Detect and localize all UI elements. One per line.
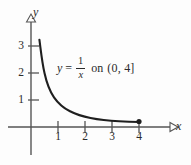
fraction-denominator: x <box>76 69 85 81</box>
on-keyword: on <box>91 61 103 76</box>
fraction-numerator: 1 <box>76 56 85 68</box>
equation-lhs: y <box>57 61 62 76</box>
domain-interval: (0, 4] <box>107 61 134 76</box>
y-axis-ticks <box>28 46 39 100</box>
x-tick-label-4: 4 <box>132 131 146 143</box>
plot-canvas <box>0 0 191 165</box>
fraction-one-over-x: 1 x <box>76 56 85 80</box>
equals-sign: = <box>65 61 72 76</box>
x-tick-label-3: 3 <box>105 131 119 143</box>
x-tick-label-1: 1 <box>51 131 65 143</box>
function-graph-figure: x y 1 2 3 4 1 2 3 y = 1 x on (0, 4] <box>0 0 191 165</box>
y-tick-label-1: 1 <box>12 94 24 106</box>
x-tick-label-2: 2 <box>78 131 92 143</box>
equation-annotation: y = 1 x on (0, 4] <box>57 56 135 80</box>
y-tick-label-2: 2 <box>12 67 24 79</box>
y-axis-label: y <box>33 6 38 18</box>
y-tick-label-3: 3 <box>12 40 24 52</box>
reciprocal-curve <box>39 40 139 122</box>
closed-endpoint-dot <box>136 119 141 124</box>
x-axis-label: x <box>176 120 181 132</box>
